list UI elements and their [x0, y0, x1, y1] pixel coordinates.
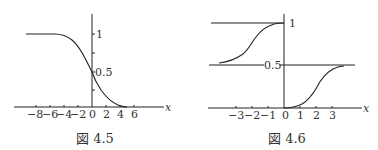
figure-caption-4-6: 図 4.6 — [268, 128, 306, 147]
x-tick-label: 4 — [117, 108, 124, 121]
x-axis-label: x — [165, 101, 172, 114]
figure-4-6 — [208, 14, 362, 108]
x-tick-label: 3 — [329, 109, 336, 122]
x-tick-label: 6 — [131, 108, 138, 121]
y-tick-label-1: 1 — [289, 17, 296, 30]
x-tick-label: 0 — [89, 108, 96, 121]
figures-canvas: −8 −6 −4 −2 0 2 4 6 x 1 0.5 — [0, 0, 378, 150]
x-tick-label: −2 — [70, 108, 86, 121]
left-branch-curve — [219, 23, 284, 63]
x-tick-label: 2 — [313, 109, 320, 122]
y-tick-label-1: 1 — [96, 28, 103, 41]
y-tick-label-0-5: 0.5 — [95, 66, 113, 79]
right-branch-curve — [284, 66, 344, 108]
x-tick-label: −1 — [260, 109, 276, 122]
figure-caption-4-5: 図 4.5 — [76, 128, 114, 147]
figure-4-6-labels: −3 −2 −1 0 1 2 3 x 1 0.5 — [228, 17, 370, 122]
x-tick-label: 0 — [282, 109, 289, 122]
x-axis-label: x — [363, 102, 370, 115]
figure-4-5 — [14, 14, 164, 107]
x-tick-label: −8 — [27, 108, 43, 121]
x-tick-label: −3 — [228, 109, 244, 122]
x-tick-label: 2 — [103, 108, 110, 121]
x-tick-label: −2 — [244, 109, 260, 122]
y-tick-label-0-5: 0.5 — [264, 59, 282, 72]
x-tick-label: 1 — [297, 109, 304, 122]
